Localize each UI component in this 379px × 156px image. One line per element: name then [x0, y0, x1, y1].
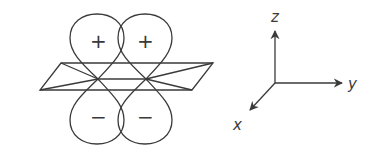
orbital-diagram: + + − − z y x [0, 0, 379, 156]
sign-lower-left: − [90, 105, 107, 129]
nodal-plane [40, 63, 213, 90]
z-axis-label: z [270, 8, 280, 26]
x-axis-label: x [232, 116, 242, 134]
coordinate-axes [250, 31, 342, 110]
sign-upper-right: + [137, 29, 154, 53]
sign-lower-right: − [137, 105, 154, 129]
y-axis-label: y [347, 75, 358, 93]
sign-upper-left: + [90, 29, 107, 53]
x-axis-arrow [250, 83, 275, 110]
